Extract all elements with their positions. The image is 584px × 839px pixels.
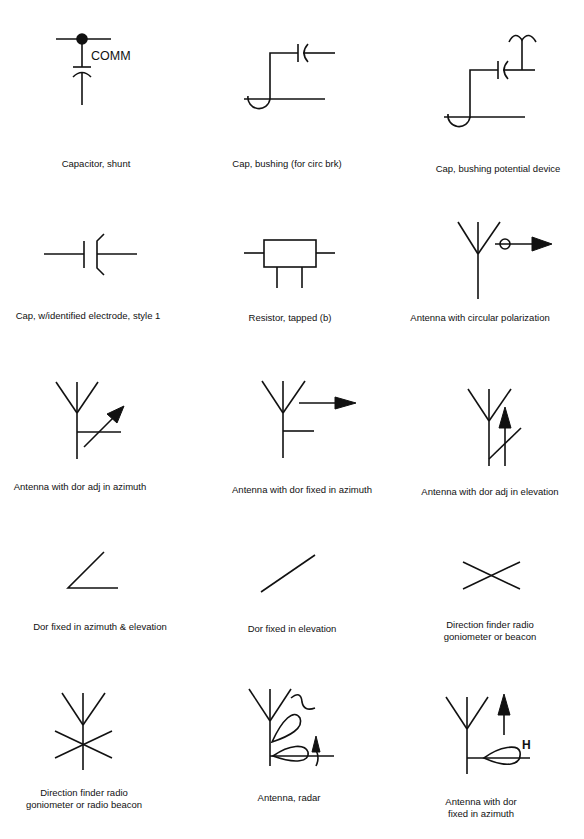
cap-bushing-circ-brk-symbol [244, 44, 335, 109]
label-resistor-tapped: Resistor, tapped (b) [249, 312, 332, 324]
label-antenna-dor-fixed-azimuth: Antenna with dor fixed in azimuth [232, 484, 372, 496]
antenna-radar-symbol [249, 689, 334, 766]
antenna-dor-fixed-azimuth-symbol [262, 381, 356, 458]
label-antenna-dor-fixed-azimuth-h: Antenna with dor fixed in azimuth [445, 796, 516, 820]
direction-finder-goniometer-beacon-symbol [463, 562, 520, 589]
label-direction-finder-beacon: Direction finder radio goniometer or bea… [444, 619, 536, 643]
comm-annotation: COMM [91, 49, 131, 63]
label-cap-bushing-circ-brk: Cap, bushing (for circ brk) [232, 158, 341, 170]
antenna-dor-adj-azimuth-symbol [56, 382, 124, 459]
direction-finder-radio-beacon-symbol [55, 693, 112, 770]
label-direction-finder-radio-beacon: Direction finder radio goniometer or rad… [26, 787, 142, 811]
label-dor-fixed-azimuth-elevation: Dor fixed in azimuth & elevation [33, 621, 167, 633]
label-antenna-dor-adj-elevation: Antenna with dor adj in elevation [421, 486, 558, 498]
label-antenna-circular-polarization: Antenna with circular polarization [410, 312, 549, 324]
label-antenna-dor-adj-azimuth: Antenna with dor adj in azimuth [14, 481, 147, 493]
antenna-dor-adj-elevation-symbol [468, 389, 521, 466]
label-line-1: Direction finder radio [444, 619, 536, 631]
cap-bushing-potential-device-symbol [444, 35, 536, 126]
label-capacitor-shunt: Capacitor, shunt [62, 158, 131, 170]
dor-fixed-elevation-symbol [261, 555, 315, 592]
label-line-2: goniometer or radio beacon [26, 799, 142, 811]
label-line-2: fixed in azimuth [445, 808, 516, 820]
label-line-1: Direction finder radio [26, 787, 142, 799]
dor-fixed-azimuth-elevation-symbol [68, 552, 118, 588]
capacitor-shunt-symbol: COMM [56, 34, 131, 105]
antenna-circular-polarization-symbol [458, 222, 552, 299]
label-line-1: Antenna with dor [445, 796, 516, 808]
label-cap-identified-electrode: Cap, w/identified electrode, style 1 [16, 310, 161, 322]
resistor-tapped-symbol [244, 240, 335, 288]
cap-identified-electrode-symbol [44, 234, 137, 275]
label-cap-bushing-potential-device: Cap, bushing potential device [436, 163, 561, 175]
antenna-dor-fixed-azimuth-h-symbol: H [446, 694, 531, 774]
label-line-2: goniometer or beacon [444, 631, 536, 643]
label-dor-fixed-elevation: Dor fixed in elevation [248, 623, 337, 635]
h-annotation: H [522, 738, 531, 752]
label-antenna-radar: Antenna, radar [258, 792, 321, 804]
